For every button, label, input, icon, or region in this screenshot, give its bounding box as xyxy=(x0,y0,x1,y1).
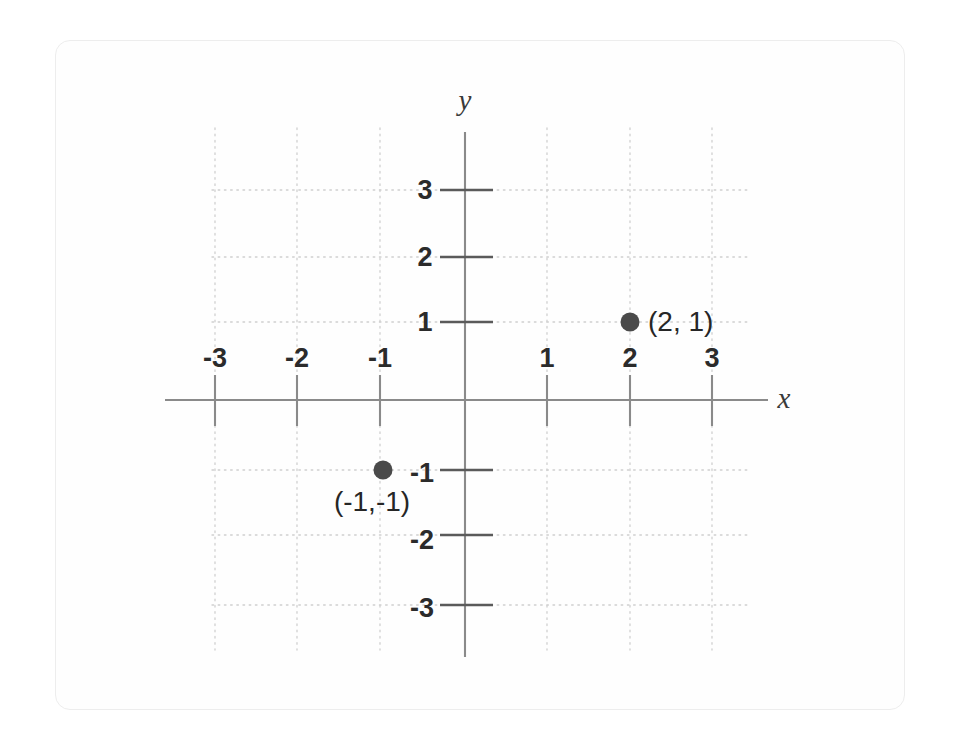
grid-vertical-lines xyxy=(215,128,712,650)
x-tick-label--2: -2 xyxy=(285,345,309,372)
y-tick-label-2: 2 xyxy=(417,244,432,271)
y-tick-label-1: 1 xyxy=(417,309,432,336)
coordinate-plane-plot xyxy=(0,0,957,751)
point-label--1--1: (-1,-1) xyxy=(334,488,410,516)
x-tick-label-3: 3 xyxy=(704,345,719,372)
figure-root: -3 -2 -1 1 2 3 3 2 1 -1 -2 -3 y x (2, 1)… xyxy=(0,0,957,751)
x-tick-label-2: 2 xyxy=(622,345,637,372)
x-tick-label--3: -3 xyxy=(203,345,227,372)
y-tick-label--1: -1 xyxy=(410,460,434,487)
grid-horizontal-lines xyxy=(212,190,748,605)
y-axis-label: y xyxy=(459,86,472,115)
data-point-2-1[interactable] xyxy=(621,313,640,332)
y-tick-label-3: 3 xyxy=(417,177,432,204)
x-axis-label: x xyxy=(778,384,791,413)
data-point--1--1[interactable] xyxy=(374,461,393,480)
coordinate-plane-svg xyxy=(0,0,957,751)
x-tick-label-1: 1 xyxy=(539,345,554,372)
y-tick-label--3: -3 xyxy=(410,595,434,622)
point-label-2-1: (2, 1) xyxy=(648,308,713,336)
y-tick-label--2: -2 xyxy=(410,527,434,554)
y-axis-tick-marks xyxy=(440,190,493,605)
x-tick-label--1: -1 xyxy=(368,345,392,372)
